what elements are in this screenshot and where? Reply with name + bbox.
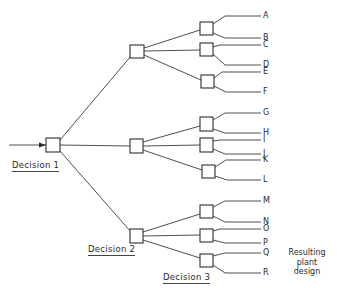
decision-2-box-upper <box>130 45 144 58</box>
result-label-line-1: Resulting <box>279 248 335 258</box>
decision-3-box-mn <box>200 205 213 218</box>
decision-3-box-ab <box>200 22 213 35</box>
edge <box>143 235 200 236</box>
decision-3-box-cd <box>200 43 213 56</box>
edge-to-C <box>213 45 261 47</box>
edge <box>143 145 200 146</box>
stage-label-decision-1: Decision 1 <box>12 161 59 172</box>
edge-to-H <box>213 129 261 133</box>
outcome-label-q: Q <box>263 249 269 257</box>
edge <box>144 55 201 80</box>
edge <box>144 50 200 51</box>
outcome-label-f: F <box>263 88 268 96</box>
decision-3-box-kl <box>202 165 215 178</box>
decision-3-box-ef <box>201 75 214 88</box>
edge <box>143 214 200 232</box>
decision-2-box-middle <box>130 139 143 153</box>
stage-label-decision-2: Decision 2 <box>88 245 135 256</box>
edge-to-J <box>213 149 261 154</box>
edge-to-K <box>215 160 261 167</box>
edge-to-B <box>213 33 261 38</box>
decision-1-box <box>46 138 60 152</box>
edge-d1-d2-middle <box>60 145 130 146</box>
edge-to-N <box>213 216 261 222</box>
edge-to-G <box>213 113 261 120</box>
outcome-label-o: O <box>263 225 269 233</box>
edge <box>143 126 200 142</box>
outcome-label-g: G <box>263 109 269 117</box>
outcome-label-l: L <box>263 176 267 184</box>
edge-to-L <box>215 176 261 180</box>
edge <box>143 240 200 258</box>
edge-d1-d2-upper <box>60 56 131 140</box>
edge-to-O <box>213 229 261 231</box>
outcome-label-i: I <box>263 136 265 144</box>
resulting-plant-design-label: Resulting plant design <box>279 248 335 277</box>
outcome-label-m: M <box>263 197 270 205</box>
edge-to-E <box>214 72 261 78</box>
outcome-label-c: C <box>263 41 269 49</box>
arrow-head-icon <box>39 143 46 148</box>
outcome-label-p: P <box>263 239 268 247</box>
edge-to-P <box>213 240 261 243</box>
edge-to-D <box>213 54 261 65</box>
edge-to-R <box>213 265 261 273</box>
decision-3-box-qr <box>200 254 213 267</box>
outcome-label-k: K <box>263 156 268 164</box>
result-label-line-2: plant <box>279 258 335 268</box>
stage-label-decision-3: Decision 3 <box>163 273 210 284</box>
decision-3-box-op <box>200 229 213 242</box>
outcome-label-a: A <box>263 12 268 20</box>
edge-to-Q <box>213 253 261 256</box>
edge-to-M <box>213 201 261 207</box>
edge-to-I <box>213 140 261 141</box>
decision-2-box-lower <box>130 229 143 243</box>
outcome-label-e: E <box>263 68 268 76</box>
edge-to-F <box>214 86 261 92</box>
edge <box>143 150 202 170</box>
decision-3-box-gh <box>200 117 213 131</box>
decision-3-box-ij <box>200 138 213 152</box>
edge <box>144 30 200 48</box>
outcome-label-r: R <box>263 269 269 277</box>
edge-to-A <box>213 16 261 24</box>
edge-d1-d2-lower <box>60 151 131 232</box>
result-label-line-3: design <box>279 267 335 277</box>
